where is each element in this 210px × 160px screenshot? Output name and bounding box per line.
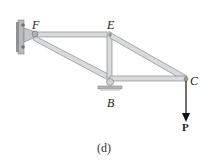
- figure-caption: (d): [97, 142, 111, 154]
- joint-label-C: C: [190, 75, 198, 87]
- member-BC: [110, 76, 186, 81]
- joint-label-B: B: [107, 97, 114, 109]
- joint-label-F: F: [32, 19, 39, 31]
- member-FE: [35, 32, 111, 37]
- load-label-P: P: [182, 122, 189, 133]
- member-EC: [110, 33, 187, 81]
- joint-label-E: E: [107, 19, 114, 31]
- load-arrow: [182, 81, 190, 122]
- member-FB: [33, 36, 110, 80]
- truss-members: [33, 32, 187, 81]
- member-EB: [107, 34, 112, 78]
